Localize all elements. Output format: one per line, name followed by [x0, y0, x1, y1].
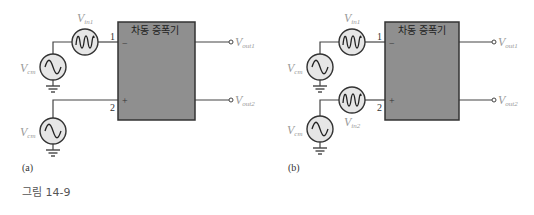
vcm-source-a-bottom [40, 118, 66, 144]
differential-amplifier-a: 차동 증폭기 − + [118, 22, 195, 120]
vcm-source-b-bottom [307, 116, 333, 142]
vcm-source-a-top [40, 54, 66, 80]
output-terminal-2-a [229, 98, 233, 102]
vin1-label-b: Vin1 [344, 11, 360, 26]
amplifier-title-a: 차동 증폭기 [131, 25, 179, 36]
vcm-label-b-bottom: Vcm [287, 123, 303, 138]
output-terminal-1-a [229, 40, 233, 44]
amplifier-title-b: 차동 증폭기 [398, 25, 446, 36]
vin1-label-a: Vin1 [77, 11, 93, 26]
ground-icon [313, 80, 327, 92]
panel-b: Vin1 Vin2 Vcm Vcm 차동 증폭기 − + 1 2 [287, 11, 518, 174]
vcm-label-b-top: Vcm [287, 61, 303, 76]
ground-icon [313, 142, 327, 154]
vout2-label-b: Vout2 [498, 93, 518, 108]
vcm-source-b-top [307, 54, 333, 80]
panel-label-b: (b) [288, 162, 300, 174]
ground-icon [46, 80, 60, 92]
vin1-source-b [339, 29, 365, 55]
inverting-sign-a: − [122, 38, 128, 49]
vout1-label-b: Vout1 [498, 35, 518, 50]
pin2-label-b: 2 [377, 102, 382, 113]
diagram-canvas: Vin1 Vcm Vcm 차동 증폭기 − + 1 2 Vout1 Vout2 … [0, 0, 534, 215]
panel-a: Vin1 Vcm Vcm 차동 증폭기 − + 1 2 Vout1 Vout2 … [20, 11, 255, 174]
output-terminal-2-b [492, 98, 496, 102]
pin1-label-a: 1 [110, 31, 115, 42]
noninverting-sign-b: + [389, 95, 395, 106]
vin2-label-b: Vin2 [344, 115, 361, 130]
vcm-label-a-bottom: Vcm [20, 125, 36, 140]
pin1-label-b: 1 [377, 31, 382, 42]
vin2-source-b [339, 87, 365, 113]
panel-label-a: (a) [22, 162, 33, 174]
output-terminal-1-b [492, 40, 496, 44]
vin1-source-a [72, 29, 98, 55]
inverting-sign-b: − [389, 38, 395, 49]
pin2-label-a: 2 [110, 102, 115, 113]
ground-icon [46, 144, 60, 156]
noninverting-sign-a: + [122, 95, 128, 106]
figure-caption: 그림 14-9 [22, 186, 70, 199]
vcm-label-a-top: Vcm [20, 61, 36, 76]
vout1-label-a: Vout1 [235, 35, 255, 50]
vout2-label-a: Vout2 [235, 93, 255, 108]
differential-amplifier-b: 차동 증폭기 − + [385, 22, 459, 120]
